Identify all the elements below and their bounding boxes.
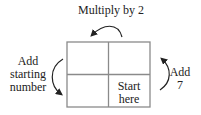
multiply-label: Multiply by 2 xyxy=(78,4,144,17)
label-line: 7 xyxy=(165,79,195,92)
start-here-label: Start here xyxy=(112,80,146,106)
label-line: number xyxy=(4,81,52,94)
label-line: here xyxy=(112,93,146,106)
add-starting-number-label: Add starting number xyxy=(4,55,52,94)
add-7-label: Add 7 xyxy=(165,66,195,92)
add-start-arrow-icon xyxy=(52,59,63,94)
multiply-arrow-icon xyxy=(92,26,122,37)
